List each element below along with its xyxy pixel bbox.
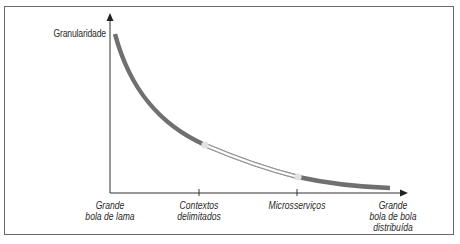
- y-axis-label: Granularidade: [54, 27, 106, 39]
- x-label-grande-bola-de-bola-distribuida: Grande bola de bola distribuída: [356, 200, 430, 233]
- x-label-contextos-delimitados: Contextos delimitados: [162, 200, 236, 222]
- x-label-grande-bola-de-lama: Grande bola de lama: [73, 200, 147, 222]
- marker-contextos: [201, 141, 208, 148]
- y-axis-arrow-icon: [107, 13, 114, 21]
- x-axis-arrow-icon: [400, 190, 408, 197]
- marker-microsservicos: [294, 173, 301, 180]
- x-label-microsservicos: Microsserviços: [260, 200, 334, 211]
